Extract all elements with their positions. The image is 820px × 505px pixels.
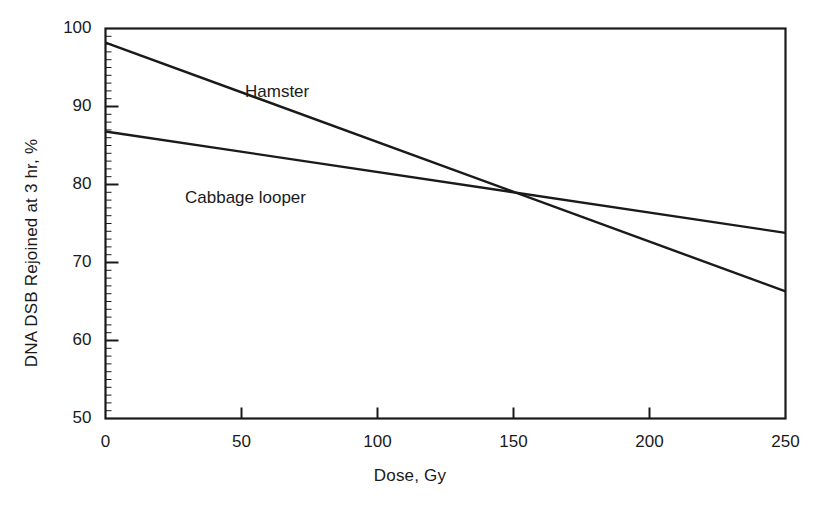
series-label-cabbage-looper: Cabbage looper [185,188,306,208]
y-tick-label: 70 [32,252,92,272]
x-tick-label: 0 [71,432,141,452]
x-axis-label: Dose, Gy [0,466,820,486]
x-tick-label: 50 [207,432,277,452]
series-line-cabbage-looper [106,131,786,232]
x-tick-label: 250 [751,432,820,452]
x-tick-label: 150 [479,432,549,452]
series-label-hamster: Hamster [245,82,309,102]
x-tick-label: 100 [343,432,413,452]
series-line-hamster [106,43,786,292]
y-tick-label: 50 [32,408,92,428]
y-tick-label: 80 [32,174,92,194]
y-tick-label: 60 [32,330,92,350]
x-tick-label: 200 [615,432,685,452]
chart-plot-area [0,0,820,505]
y-tick-label: 100 [32,18,92,38]
chart-figure: DNA DSB Rejoined at 3 hr, % Dose, Gy 506… [0,0,820,505]
y-tick-label: 90 [32,96,92,116]
plot-frame [106,29,786,419]
chart-series-lines [106,43,786,292]
y-axis-ticks [106,36,119,410]
x-axis-ticks [242,408,650,419]
